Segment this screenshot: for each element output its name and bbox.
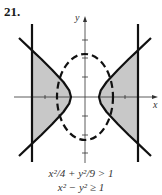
problem-number: 21.: [4, 4, 20, 20]
y-axis-label: y: [75, 12, 79, 23]
condition-ellipse: x²/4 + y²/9 > 1: [0, 167, 162, 180]
condition-hyperbola: x² − y² ≥ 1: [0, 181, 162, 194]
region-plot: 21. y x x²/4 + y²/9 > 1 x² − y² ≥ 1: [0, 0, 162, 195]
plot-canvas: [0, 0, 162, 195]
y-axis-arrow-icon: [83, 16, 87, 22]
x-axis-label: x: [153, 99, 157, 110]
